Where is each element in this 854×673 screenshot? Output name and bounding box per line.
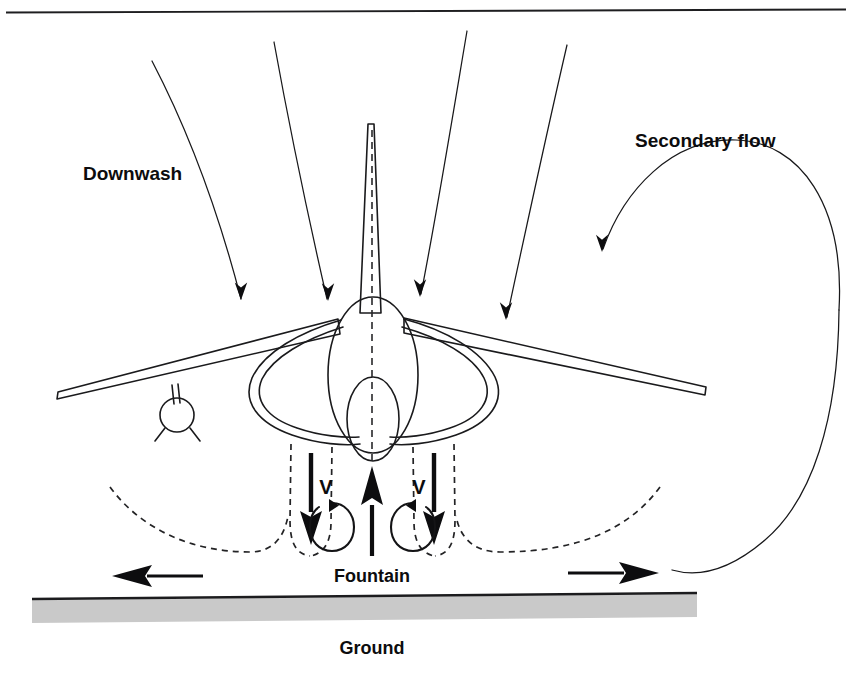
outrigger-wheel-pod [160,398,194,432]
left-jet-outer-boundary [290,444,310,556]
left-wall-jet-boundary [110,487,288,552]
fuselage [328,297,418,453]
left-vortex-arrowhead [329,499,339,512]
right-wall-jet-boundary [456,487,660,552]
outrigger-leg-right [190,428,200,441]
fountain-arrow [361,466,383,556]
secondary-flow-arrowhead [596,235,608,252]
vortex-right-label: V [412,476,426,498]
right-jet-outer-boundary [435,444,455,556]
downwash-arrowhead-4 [500,302,512,320]
downwash-streamline-2 [274,42,327,299]
ground-label: Ground [340,638,405,658]
downwash-arrowhead-3 [414,279,426,297]
ground-effect-diagram: Downwash Secondary flow V V Fountain Gro… [0,0,854,673]
outrigger-strut-right [178,384,180,403]
downwash-arrowhead-2 [322,283,334,301]
secondary-flow-lower-arc [672,310,839,573]
right-jet-inner-boundary [413,447,434,556]
outrigger-landing-gear [155,384,200,441]
fountain-arrowhead [361,466,383,505]
right-wing [404,318,706,395]
left-jet-inner-boundary [311,447,332,556]
wall-jet-boundaries [110,487,660,552]
top-rule [6,10,846,13]
right-vortex-arrowhead [406,499,416,512]
downwash-label: Downwash [83,163,182,184]
secondary-flow-label: Secondary flow [635,130,776,151]
right-intake-duct-inner [390,327,487,437]
vortex-left-label: V [319,476,333,498]
downwash-streamlines [152,31,567,320]
left-wing [57,319,340,399]
outrigger-strut-left [172,385,174,404]
downwash-streamline-3 [421,31,467,294]
downwash-streamline-4 [507,45,567,317]
right-ground-arrowhead [619,562,659,584]
left-intake-duct-inner [259,327,359,437]
figure-root: Downwash Secondary flow V V Fountain Gro… [0,0,854,673]
secondary-flow-loop [596,140,840,573]
left-intake-duct [249,320,360,445]
nose-radome [347,377,399,461]
fountain-label: Fountain [334,566,410,586]
left-ground-arrowhead [112,565,152,587]
downwash-arrowhead-1 [235,283,247,301]
tail-fin [360,124,381,313]
outrigger-leg-left [155,428,165,441]
ground-surface [32,593,697,623]
secondary-flow-upper-arc [603,140,840,310]
